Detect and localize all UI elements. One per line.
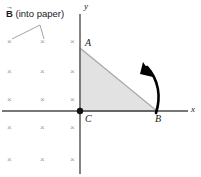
b-letter: B bbox=[6, 8, 13, 19]
field-mark: × bbox=[40, 96, 45, 104]
field-mark: × bbox=[7, 38, 12, 46]
x-axis-label: x bbox=[191, 105, 195, 114]
field-mark: × bbox=[7, 156, 12, 164]
physics-figure: × × × × × × × × × × × × × × × → B (into … bbox=[0, 0, 201, 177]
rotation-arrow-head bbox=[140, 62, 153, 77]
field-mark: × bbox=[70, 156, 75, 164]
b-vector-symbol: → B bbox=[6, 9, 13, 19]
field-mark: × bbox=[40, 68, 45, 76]
magnetic-field-label: → B (into paper) bbox=[6, 9, 64, 19]
vertex-label-b: B bbox=[155, 114, 161, 124]
vertex-label-c: C bbox=[85, 114, 92, 124]
vector-arrow-icon: → bbox=[6, 5, 13, 9]
field-mark: × bbox=[70, 124, 75, 132]
field-mark: × bbox=[70, 96, 75, 104]
origin-dot bbox=[77, 108, 83, 114]
field-mark: × bbox=[7, 68, 12, 76]
leader-line-left bbox=[12, 25, 40, 39]
field-mark: × bbox=[7, 96, 12, 104]
field-mark: × bbox=[70, 38, 75, 46]
field-mark: × bbox=[40, 156, 45, 164]
vertex-label-a: A bbox=[85, 38, 91, 48]
field-mark: × bbox=[40, 124, 45, 132]
y-axis-label: y bbox=[84, 2, 88, 11]
field-mark: × bbox=[7, 124, 12, 132]
field-mark: × bbox=[70, 68, 75, 76]
field-mark: × bbox=[40, 38, 45, 46]
figure-canvas bbox=[0, 0, 201, 177]
field-direction-text: (into paper) bbox=[16, 8, 65, 19]
triangle-loop bbox=[80, 48, 157, 111]
